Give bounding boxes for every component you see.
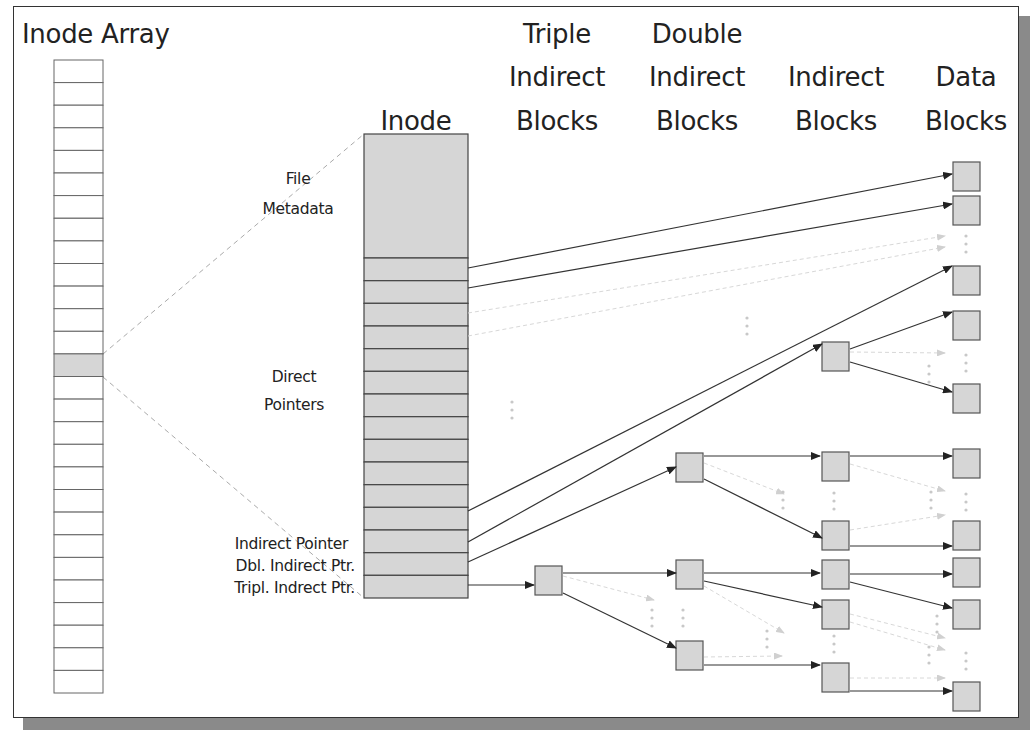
inode-array-entry [54, 331, 103, 354]
data-block [953, 266, 980, 295]
ellipsis-dot [745, 332, 748, 335]
header-triple-2: Indirect [509, 62, 605, 92]
inode-array-entry [54, 467, 103, 490]
ellipsis-dot [935, 630, 938, 633]
inode-array-entry [54, 218, 103, 241]
inode-array-entry [54, 670, 103, 693]
inode-metadata-block [364, 134, 468, 258]
ellipsis-dot [964, 492, 967, 495]
column-headers: Inode Array Inode Triple Indirect Blocks… [22, 19, 1007, 136]
header-double-1: Double [652, 19, 742, 49]
edge-direct-1 [468, 174, 952, 268]
inode-row-direct [364, 258, 468, 281]
label-indirect-pointer: Indirect Pointer [235, 535, 349, 553]
ellipsis-dot [650, 624, 653, 627]
ellipsis-dot [832, 491, 835, 494]
ellipsis-dot [935, 614, 938, 617]
ellipsis-dot [964, 651, 967, 654]
diagram-canvas: Inode Array Inode Triple Indirect Blocks… [0, 0, 1033, 740]
header-inode: Inode [380, 106, 451, 136]
inode-array-entry [54, 60, 103, 83]
ellipsis-dot [765, 637, 768, 640]
inode-array-entry [54, 444, 103, 467]
edge-direct-last [468, 266, 952, 511]
ellipsis-dot [964, 500, 967, 503]
ellipsis-dot [929, 506, 932, 509]
ellipsis-dot [929, 498, 932, 501]
pointer-edges [468, 174, 952, 691]
inode-array-entry [54, 648, 103, 671]
inode-row-dbl-indirect [364, 553, 468, 576]
ellipsis-dot [781, 506, 784, 509]
ellipsis-dot [781, 498, 784, 501]
ellipsis-dot [510, 400, 513, 403]
edge-double-indirect [468, 467, 676, 562]
inode-row-tripl-indirect [364, 575, 468, 598]
ellipsis-dot [832, 642, 835, 645]
ellipsis-dot [765, 629, 768, 632]
inode-array [54, 60, 103, 693]
inode-array-entry [54, 309, 103, 332]
ellipsis-dot [927, 653, 930, 656]
inode-array-entry [54, 83, 103, 106]
ellipsis-dot [964, 369, 967, 372]
inode-array-entry [54, 286, 103, 309]
ellipsis-dot [927, 372, 930, 375]
double-indirect-block [676, 560, 703, 589]
data-block [953, 196, 980, 225]
inode-row-direct [364, 485, 468, 508]
inode-row-direct [364, 281, 468, 304]
inode-labels: File Metadata Direct Pointers Indirect P… [233, 170, 355, 597]
inode-array-entry [54, 241, 103, 264]
data-block [953, 521, 980, 550]
ellipsis-dot [681, 608, 684, 611]
header-triple-1: Triple [522, 19, 591, 49]
header-double-3: Blocks [656, 106, 738, 136]
ellipsis-dot [964, 242, 967, 245]
label-metadata: Metadata [263, 200, 334, 218]
ellipsis-dot [964, 659, 967, 662]
indirect-block [822, 560, 849, 589]
inode-array-entry [54, 150, 103, 173]
inode-row-direct [364, 462, 468, 485]
label-file: File [286, 170, 311, 188]
inode-pointer-rows [364, 258, 468, 598]
inode-row-direct [364, 349, 468, 372]
ellipsis-dot [832, 634, 835, 637]
ellipsis-dot [765, 645, 768, 648]
data-block [953, 682, 980, 711]
inode-array-entry [54, 377, 103, 400]
ellipsis-dot [964, 353, 967, 356]
ellipsis-dot [929, 490, 932, 493]
inode-array-entry [54, 196, 103, 219]
inode-array-entry [54, 399, 103, 422]
inode-row-direct [364, 507, 468, 530]
label-pointers: Pointers [264, 396, 324, 414]
inode-row-direct [364, 394, 468, 417]
ellipsis-dot [964, 508, 967, 511]
ellipsis-dot [927, 661, 930, 664]
inode-array-entry [54, 105, 103, 128]
ellipsis-dot [927, 380, 930, 383]
inode-array-entry [54, 173, 103, 196]
indirect-block [822, 342, 849, 371]
ellipsis-dot [927, 645, 930, 648]
inode-array-entry [54, 625, 103, 648]
header-double-2: Indirect [649, 62, 745, 92]
inode-array-entry [54, 535, 103, 558]
header-indirect-2: Blocks [795, 106, 877, 136]
ellipsis-dot [964, 361, 967, 364]
inode-array-entry [54, 512, 103, 535]
ellipsis-dot [650, 616, 653, 619]
indirect-block [822, 663, 849, 692]
ellipsis-dot [510, 408, 513, 411]
edge-indirect [468, 344, 822, 542]
data-block [953, 558, 980, 587]
ellipsis-dot [745, 324, 748, 327]
inode-row-direct [364, 303, 468, 326]
ellipsis-dot [927, 364, 930, 367]
inode-row-indirect [364, 530, 468, 553]
ellipsis-dot [832, 499, 835, 502]
ellipsis-dot [964, 667, 967, 670]
indirect-block [822, 600, 849, 629]
